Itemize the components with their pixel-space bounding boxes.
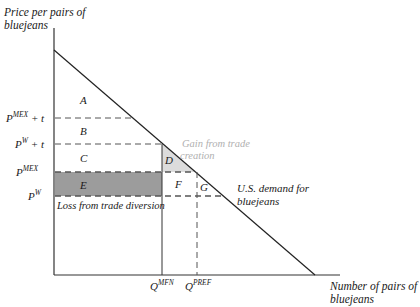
gain-annotation-line1: Gain from trade [182,138,250,149]
svg-text:PW + t: PW + t [14,136,45,150]
price-label-pw: PW [27,188,42,202]
region-c-label: C [80,152,88,164]
loss-annotation: Loss from trade diversion [56,200,165,211]
svg-text:PMEX: PMEX [15,164,39,178]
region-d-label: D [164,154,173,166]
y-axis-label-line1: Price per pairs of [3,6,87,19]
region-b-label: B [80,125,87,137]
price-label-pmex: PMEX [15,164,39,178]
region-a-label: A [79,94,87,106]
region-e-shade [55,172,162,196]
price-label-pw-t: PW + t [14,136,45,150]
svg-text:PMEX + t: PMEX + t [5,110,45,124]
quantity-label-qpref: QPREF [185,278,212,292]
x-axis-label-line2: bluejeans [330,293,375,306]
demand-annotation-line2: bluejeans [237,195,279,207]
quantity-label-qmfn: QMFN [150,278,175,292]
svg-text:PW: PW [27,188,42,202]
svg-text:QPREF: QPREF [185,278,212,292]
x-axis-label-line1: Number of pairs of [329,280,419,293]
demand-annotation-line1: U.S. demand for [237,182,310,194]
region-g-label: G [200,181,208,193]
demand-curve [54,50,315,275]
gain-annotation-line2: creation [180,150,215,161]
region-f-label: F [174,178,182,190]
trade-diversion-diagram: Price per pairs of bluejeans Number of p… [0,0,420,307]
price-label-pmex-t: PMEX + t [5,110,45,124]
svg-text:QMFN: QMFN [150,278,175,292]
y-axis-label-line2: bluejeans [4,19,49,32]
region-e-label: E [79,179,87,191]
